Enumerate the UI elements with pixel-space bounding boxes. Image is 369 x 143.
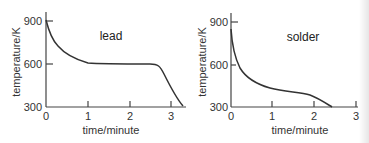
- lead-y-tick-label: 900: [24, 15, 42, 27]
- lead-y-tick-label: 300: [24, 101, 42, 113]
- solder-y-axis-title: temperature/K: [196, 26, 208, 96]
- lead-panel-label: lead: [100, 29, 123, 43]
- solder-x-tick-label: 0: [228, 110, 234, 122]
- lead-x-tick-label: 3: [168, 110, 174, 122]
- cooling-curves-figure: 900 600 300 0 1 2 3 time/minute temperat…: [0, 0, 369, 143]
- solder-x-axis-title: time/minute: [272, 124, 329, 136]
- lead-x-axis-title: time/minute: [83, 124, 140, 136]
- lead-x-tick-label: 1: [85, 110, 91, 122]
- solder-chart: 900 600 300 0 1 2 3 time/minute temperat…: [196, 13, 359, 136]
- solder-panel-label: solder: [287, 30, 320, 44]
- lead-chart: 900 600 300 0 1 2 3 time/minute temperat…: [10, 12, 186, 136]
- solder-y-tick-label: 300: [210, 101, 228, 113]
- lead-x-tick-label: 0: [43, 110, 49, 122]
- lead-y-tick-label: 600: [24, 58, 42, 70]
- solder-x-tick-label: 2: [311, 110, 317, 122]
- solder-y-tick-label: 600: [210, 59, 228, 71]
- lead-y-axis-title: temperature/K: [10, 26, 22, 96]
- page-edge-shadow: [359, 0, 369, 143]
- lead-x-tick-label: 2: [127, 110, 133, 122]
- solder-y-tick-label: 900: [210, 16, 228, 28]
- solder-x-tick-label: 1: [269, 110, 275, 122]
